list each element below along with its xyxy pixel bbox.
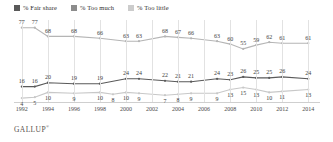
data-label: 13 (253, 92, 259, 98)
gridline-10 (282, 20, 283, 102)
data-point (190, 92, 192, 94)
trademark-icon: ® (46, 124, 49, 129)
data-point (164, 35, 166, 37)
data-label: 21 (175, 73, 181, 79)
data-point (242, 86, 244, 88)
data-label: 16 (32, 78, 38, 84)
data-label: 16 (19, 78, 25, 84)
data-label: 7 (164, 98, 167, 104)
data-label: 24 (136, 70, 142, 76)
data-label: 68 (71, 28, 77, 34)
data-point (138, 78, 140, 80)
data-label: 25 (253, 69, 259, 75)
data-label: 77 (32, 19, 38, 25)
data-label: 10 (123, 95, 129, 101)
data-point (34, 86, 36, 88)
legend-swatch-icon (71, 5, 77, 11)
data-label: 15 (240, 90, 246, 96)
legend-swatch-icon (128, 5, 134, 11)
data-point (164, 80, 166, 82)
data-label: 8 (112, 97, 115, 103)
data-label: 24 (305, 70, 311, 76)
x-axis-line (14, 102, 320, 103)
x-tick-label-1992: 1992 (16, 106, 28, 112)
x-tick-label-2008: 2008 (224, 106, 236, 112)
x-tick-label-2012: 2012 (276, 106, 288, 112)
data-point (190, 37, 192, 39)
data-point (190, 81, 192, 83)
chart-container: % Fair share% Too much% Too little 19921… (0, 0, 333, 142)
gridline-11 (308, 20, 309, 102)
data-label: 9 (72, 96, 75, 102)
data-label: 77 (19, 19, 25, 25)
data-label: 19 (97, 75, 103, 81)
data-point (216, 40, 218, 42)
gridline-7 (204, 20, 205, 102)
data-label: 9 (190, 96, 193, 102)
x-axis-tick-labels: 1992199419961998200020022004200620082010… (14, 106, 320, 118)
data-label: 24 (214, 70, 220, 76)
data-label: 55 (240, 40, 246, 46)
data-label: 9 (138, 96, 141, 102)
data-label: 19 (71, 75, 77, 81)
data-point (216, 78, 218, 80)
data-label: 9 (216, 96, 219, 102)
data-label: 10 (97, 95, 103, 101)
data-point (242, 76, 244, 78)
gridline-9 (256, 20, 257, 102)
data-label: 20 (45, 74, 51, 80)
data-point (164, 94, 166, 96)
legend-item-2: % Too little (128, 4, 169, 11)
gridline-0 (22, 20, 23, 102)
data-label: 67 (175, 29, 181, 35)
x-tick-label-2006: 2006 (198, 106, 210, 112)
data-label: 68 (162, 28, 168, 34)
data-point (138, 92, 140, 94)
data-label: 26 (240, 68, 246, 74)
legend-label: % Fair share (23, 4, 57, 11)
legend-item-1: % Too much (71, 4, 114, 11)
x-tick-label-2000: 2000 (120, 106, 132, 112)
data-point (112, 93, 114, 95)
data-label: 61 (279, 35, 285, 41)
legend-item-0: % Fair share (14, 4, 57, 11)
legend-label: % Too much (80, 4, 114, 11)
data-point (268, 41, 270, 43)
data-label: 24 (123, 70, 129, 76)
data-label: 5 (33, 100, 36, 106)
gallup-wordmark: GALLUP (14, 125, 46, 134)
data-point (34, 96, 36, 98)
x-tick-label-2010: 2010 (250, 106, 262, 112)
data-label: 13 (305, 92, 311, 98)
data-label: 66 (188, 30, 194, 36)
data-label: 8 (177, 97, 180, 103)
data-point (268, 91, 270, 93)
data-label: 59 (253, 37, 259, 43)
data-label: 10 (45, 95, 51, 101)
data-label: 13 (227, 92, 233, 98)
x-tick-label-2014: 2014 (302, 106, 314, 112)
gridline-8 (230, 20, 231, 102)
data-label: 25 (266, 69, 272, 75)
chart-legend: % Fair share% Too much% Too little (14, 4, 169, 11)
data-label: 61 (305, 35, 311, 41)
gallup-logo: GALLUP® (14, 124, 49, 134)
x-tick-label-1996: 1996 (68, 106, 80, 112)
data-label: 60 (227, 36, 233, 42)
data-label: 10 (266, 95, 272, 101)
data-point (268, 77, 270, 79)
data-point (138, 40, 140, 42)
data-point (34, 27, 36, 29)
data-label: 63 (136, 33, 142, 39)
data-label: 62 (266, 34, 272, 40)
data-label: 11 (279, 94, 285, 100)
data-label: 63 (123, 33, 129, 39)
x-tick-label-1994: 1994 (42, 106, 54, 112)
x-tick-label-1998: 1998 (94, 106, 106, 112)
data-point (216, 92, 218, 94)
data-label: 21 (188, 73, 194, 79)
x-tick-label-2002: 2002 (146, 106, 158, 112)
data-point (242, 48, 244, 50)
gridline-5 (152, 20, 153, 102)
data-label: 23 (227, 71, 233, 77)
